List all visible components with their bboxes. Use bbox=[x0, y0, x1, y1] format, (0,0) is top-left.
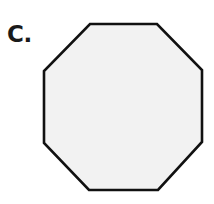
figure-container: C. bbox=[0, 0, 214, 204]
octagon-icon bbox=[44, 24, 202, 190]
octagon-shape-svg bbox=[0, 0, 214, 204]
